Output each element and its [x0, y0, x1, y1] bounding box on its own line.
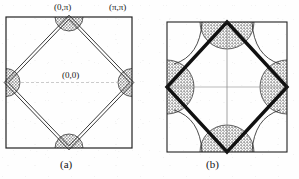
caption-panel-b: (b) — [206, 158, 219, 170]
figure-container — [0, 0, 299, 179]
caption-panel-a: (a) — [60, 158, 72, 170]
panel-b — [140, 0, 299, 179]
label-pi-pi: (π,π) — [109, 2, 126, 12]
label-0-0: (0,0) — [62, 70, 79, 80]
label-0-pi: (0,π) — [54, 2, 71, 12]
panel-a — [0, 3, 146, 162]
brillouin-zone-figure — [0, 0, 299, 179]
